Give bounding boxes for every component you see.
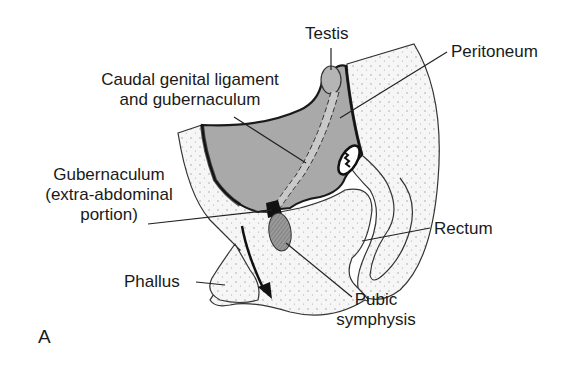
panel-label: A (38, 327, 51, 347)
label-pubic-symphysis: Pubic symphysis (326, 290, 426, 330)
label-rectum: Rectum (434, 219, 493, 239)
testis-shape (321, 66, 341, 94)
label-caudal-genital-ligament: Caudal genital ligament and gubernaculum (90, 70, 290, 110)
label-gubernaculum: Gubernaculum (extra-abdominal portion) (28, 165, 190, 225)
label-testis: Testis (305, 24, 348, 44)
body-wall-right (345, 44, 439, 299)
label-phallus: Phallus (124, 272, 180, 292)
label-peritoneum: Peritoneum (451, 42, 538, 62)
